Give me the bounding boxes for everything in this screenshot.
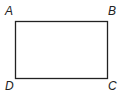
vertex-label-b: B bbox=[108, 4, 116, 18]
vertex-label-a: A bbox=[4, 4, 13, 18]
vertex-label-d: D bbox=[5, 79, 14, 92]
vertex-label-c: C bbox=[108, 79, 117, 92]
rectangle-abcd bbox=[16, 22, 108, 79]
rectangle-diagram: A B C D bbox=[0, 0, 122, 92]
